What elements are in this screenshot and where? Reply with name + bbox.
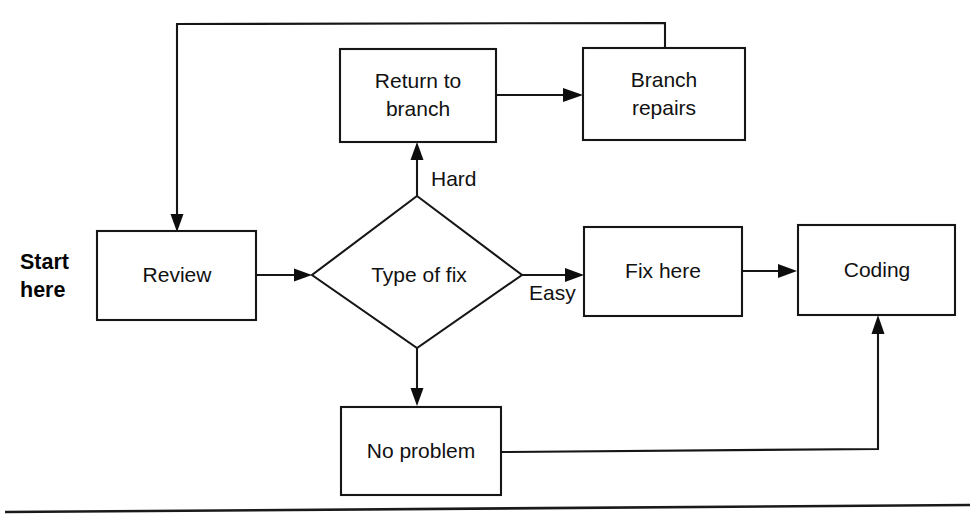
node-no-problem[interactable]: No problem (341, 407, 501, 495)
flowchart-svg: Hard Easy (0, 0, 975, 523)
node-review[interactable]: Review (97, 231, 256, 320)
arrowhead-icon (778, 264, 797, 278)
flowchart-canvas: Hard Easy (0, 0, 975, 523)
start-here-line1: Start (20, 250, 69, 274)
edge-label-hard: Hard (431, 167, 477, 190)
node-label-type-of-fix: Type of fix (371, 263, 467, 286)
node-shape-rect (340, 49, 496, 142)
edge-type-of-fix-to-fix-here: Easy (522, 268, 584, 304)
node-label-coding: Coding (844, 258, 911, 281)
node-label-branch-repairs-line1: Branch (631, 68, 698, 91)
node-fix-here[interactable]: Fix here (584, 227, 742, 316)
edge-review-to-type-of-fix (256, 269, 312, 282)
node-shape-rect (583, 48, 745, 140)
start-here-annotation: Start here (20, 250, 69, 302)
node-coding[interactable]: Coding (798, 225, 955, 315)
node-branch-repairs[interactable]: Branch repairs (583, 48, 745, 140)
node-return-to-branch[interactable]: Return to branch (340, 49, 496, 142)
node-label-branch-repairs-line2: repairs (632, 96, 696, 119)
edge-fix-here-to-coding (742, 264, 797, 278)
node-type-of-fix[interactable]: Type of fix (312, 196, 522, 348)
node-label-return-to-branch-line1: Return to (375, 69, 461, 92)
arrowhead-icon (411, 142, 424, 160)
arrowhead-icon (171, 214, 184, 232)
arrowhead-icon (294, 269, 312, 282)
edge-no-problem-to-coding (501, 315, 885, 452)
edge-type-of-fix-to-no-problem (411, 348, 424, 406)
node-label-no-problem: No problem (367, 439, 476, 462)
edge-path (501, 330, 878, 452)
edge-type-of-fix-to-return-to-branch: Hard (411, 142, 477, 196)
node-label-return-to-branch-line2: branch (386, 97, 450, 120)
start-here-line2: here (20, 278, 65, 302)
arrowhead-icon (563, 88, 583, 102)
node-label-fix-here: Fix here (625, 259, 701, 282)
footer-divider (5, 505, 970, 512)
edge-label-easy: Easy (529, 281, 576, 304)
edge-return-to-branch-to-branch-repairs (496, 88, 583, 102)
arrowhead-icon (872, 315, 885, 334)
node-label-review: Review (143, 263, 213, 286)
arrowhead-icon (411, 388, 424, 406)
